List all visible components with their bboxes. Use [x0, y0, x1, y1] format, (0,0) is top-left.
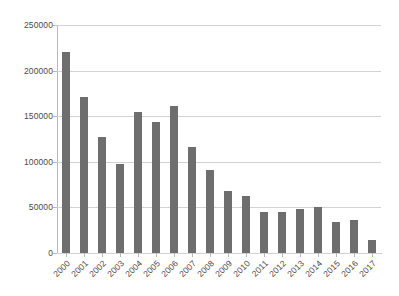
bar [242, 196, 250, 253]
y-axis-tick-mark [53, 71, 57, 72]
x-axis-label-slot: 2010 [237, 256, 255, 296]
y-axis-tick-mark [53, 162, 57, 163]
bar-slot [363, 25, 381, 253]
bar [224, 191, 232, 253]
bar-slot [309, 25, 327, 253]
bar-slot [327, 25, 345, 253]
bar [152, 122, 160, 253]
bar-slot [93, 25, 111, 253]
bar-slot [129, 25, 147, 253]
x-axis-tick-label: 2000 [51, 258, 72, 279]
bar-slot [165, 25, 183, 253]
y-axis-tick-mark [53, 207, 57, 208]
y-axis-tick-mark [53, 25, 57, 26]
bar-chart: 250000200000150000100000500000 200020012… [0, 0, 399, 296]
bar [188, 147, 196, 253]
x-axis-label-slot: 2017 [363, 256, 381, 296]
bar [260, 212, 268, 253]
bar [206, 170, 214, 253]
bar-slot [273, 25, 291, 253]
bar [134, 112, 142, 253]
bar-slot [57, 25, 75, 253]
y-axis-tick-mark [53, 253, 57, 254]
y-axis-tick-label: 150000 [24, 111, 53, 121]
bar [332, 222, 340, 253]
bar [62, 52, 70, 253]
bar-slot [219, 25, 237, 253]
bar [80, 97, 88, 253]
bar-series [57, 25, 381, 253]
bar [170, 106, 178, 253]
bar-slot [147, 25, 165, 253]
bar [296, 209, 304, 253]
bar-slot [75, 25, 93, 253]
bar [98, 137, 106, 253]
bar [278, 212, 286, 253]
y-axis-labels: 250000200000150000100000500000 [0, 0, 53, 296]
bar-slot [345, 25, 363, 253]
bar [314, 207, 322, 254]
bar-slot [255, 25, 273, 253]
bar-slot [111, 25, 129, 253]
y-axis-tick-mark [53, 116, 57, 117]
bar-slot [291, 25, 309, 253]
bar-slot [201, 25, 219, 253]
bar [116, 164, 124, 253]
y-axis-tick-label: 50000 [29, 202, 53, 212]
bar [350, 220, 358, 253]
y-axis-tick-label: 100000 [24, 157, 53, 167]
x-axis-labels: 2000200120022003200420052006200720082009… [57, 256, 381, 296]
bar-slot [183, 25, 201, 253]
plot-area [57, 25, 381, 253]
bar [368, 240, 376, 253]
bar-slot [237, 25, 255, 253]
y-axis-tick-label: 250000 [24, 20, 53, 30]
y-axis-tick-label: 200000 [24, 66, 53, 76]
